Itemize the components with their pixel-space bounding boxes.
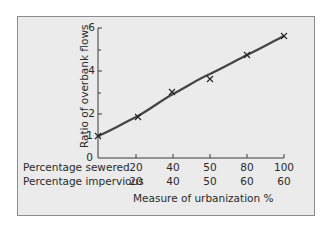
impervious-value: 20 xyxy=(121,175,151,187)
row-label-sewered: Percentage sewered xyxy=(23,161,130,173)
impervious-value: 60 xyxy=(232,175,262,187)
impervious-value: 40 xyxy=(158,175,188,187)
x-ticks xyxy=(136,154,284,158)
impervious-value: 50 xyxy=(195,175,225,187)
sewered-value: 20 xyxy=(121,161,151,173)
y-ticks xyxy=(98,28,102,136)
sewered-value: 100 xyxy=(269,161,299,173)
y-axis-label: Ratio of overbank flows xyxy=(78,25,90,148)
x-axis-label: Measure of urbanization % xyxy=(133,192,273,204)
sewered-value: 50 xyxy=(195,161,225,173)
sewered-value: 40 xyxy=(158,161,188,173)
sewered-value: 80 xyxy=(232,161,262,173)
impervious-value: 60 xyxy=(269,175,299,187)
trend-curve xyxy=(98,36,284,136)
